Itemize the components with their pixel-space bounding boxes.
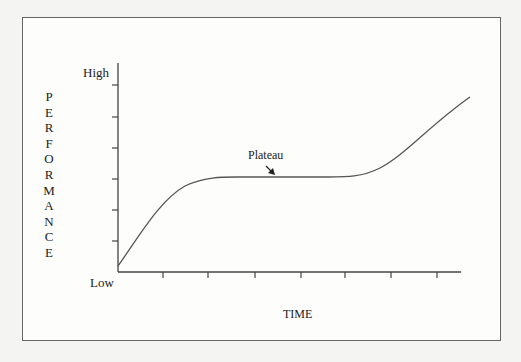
y-axis-title-letter: R xyxy=(42,167,56,183)
y-axis-title-letter: C xyxy=(42,229,56,245)
y-axis-title-letter: P xyxy=(42,89,56,105)
y-axis-title-letter: E xyxy=(42,105,56,121)
chart-plot xyxy=(0,0,521,362)
y-axis-title-letter: O xyxy=(42,151,56,167)
y-axis-title-letter: E xyxy=(42,245,56,261)
plateau-annotation: Plateau xyxy=(248,149,283,161)
y-axis-title-letter: R xyxy=(42,120,56,136)
y-axis-title: P E R F O R M A N C E xyxy=(42,89,56,261)
y-axis-title-letter: N xyxy=(42,214,56,230)
y-axis-low-label: Low xyxy=(90,276,114,289)
y-ticks xyxy=(112,85,118,241)
y-axis-title-letter: M xyxy=(42,183,56,199)
performance-curve xyxy=(118,97,470,266)
x-axis-title: TIME xyxy=(283,308,312,320)
y-axis-title-letter: A xyxy=(42,198,56,214)
y-axis-title-letter: F xyxy=(42,136,56,152)
y-axis-high-label: High xyxy=(83,66,109,79)
plateau-arrow-icon xyxy=(266,166,275,175)
x-ticks xyxy=(163,272,437,278)
